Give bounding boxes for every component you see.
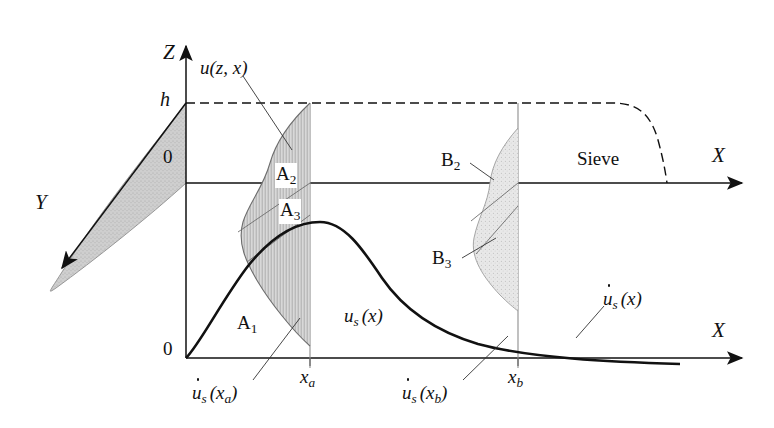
curve-label-udot-s-x-base: u — [603, 288, 613, 310]
height-label-h: h — [160, 88, 170, 111]
tick-label-xa: xa — [300, 366, 315, 391]
tick-label-xb-sub: b — [516, 375, 523, 390]
axis-label-z: Z — [163, 40, 175, 65]
value-label-udot-s-xb: us(xb) — [402, 382, 447, 407]
leader-udot-xa — [253, 318, 300, 380]
leader-udot-sx — [576, 306, 604, 338]
region-label-b3-sub: 3 — [445, 256, 452, 271]
origin-label-lower: 0 — [163, 338, 173, 360]
velocity-profile-b — [471, 128, 518, 311]
curve-label-udot-s-x: us(x) — [603, 288, 642, 313]
value-label-udot-s-xb-arg-open: (x — [420, 382, 435, 403]
axis-label-y: Y — [35, 190, 47, 215]
value-label-udot-s-xa-arg-close: ) — [231, 382, 237, 403]
region-label-b2-text: B — [441, 149, 454, 170]
region-label-b3-text: B — [432, 247, 445, 268]
region-label-a1: A1 — [237, 312, 257, 337]
axis-label-x-lower: X — [712, 318, 725, 343]
region-label-b3: B3 — [432, 247, 451, 272]
curve-label-us-x-arg: (x) — [362, 305, 383, 326]
leader-b2 — [470, 163, 494, 180]
value-label-udot-s-xa: us(xa) — [192, 382, 237, 407]
curve-label-us-x-sub: s — [354, 314, 359, 329]
leader-profile-label — [243, 76, 292, 150]
value-label-udot-s-xa-arg-open: (x — [210, 382, 225, 403]
region-label-a2-text: A — [276, 163, 290, 184]
curve-label-udot-s-x-arg: (x) — [621, 288, 642, 309]
axis-label-x-upper: X — [712, 143, 725, 168]
curve-label-us-x: us(x) — [344, 305, 383, 330]
curve-label-us-x-base: u — [344, 305, 354, 326]
curve-label-udot-s-x-sub: s — [613, 297, 618, 312]
region-label-a2: A2 — [275, 163, 297, 188]
value-label-udot-s-xa-sub: s — [202, 391, 207, 406]
region-label-b2-sub: 2 — [454, 158, 461, 173]
figure-root: Z Y X X h 0 0 u(z, x) Sieve A2 A3 A1 B2 … — [0, 0, 774, 428]
region-label-a3-text: A — [280, 199, 294, 220]
region-label-a3-sub: 3 — [294, 208, 301, 223]
region-label-a1-text: A — [237, 312, 251, 333]
tick-label-xb: xb — [508, 366, 523, 391]
bed-surface-dashed-line — [186, 103, 667, 183]
region-label-a1-sub: 1 — [251, 321, 258, 336]
diagram-canvas — [0, 0, 774, 428]
region-label-b2: B2 — [441, 149, 460, 174]
value-label-udot-s-xa-base: u — [192, 382, 202, 404]
region-label-a3: A3 — [279, 199, 301, 224]
tick-label-xa-sub: a — [308, 375, 315, 390]
value-label-udot-s-xb-arg-close: ) — [441, 382, 447, 403]
profile-label: u(z, x) — [200, 57, 247, 79]
region-label-a2-sub: 2 — [290, 172, 297, 187]
origin-label-upper: 0 — [163, 146, 173, 168]
sieve-label: Sieve — [577, 148, 619, 170]
value-label-udot-s-xb-sub: s — [412, 391, 417, 406]
value-label-udot-s-xb-base: u — [402, 382, 412, 404]
